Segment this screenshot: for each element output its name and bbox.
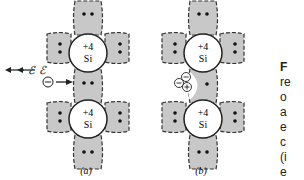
electron-a xyxy=(43,77,73,87)
caption-fragment: e xyxy=(280,165,304,180)
svg-text:+4: +4 xyxy=(198,107,209,118)
svg-text:Si: Si xyxy=(199,53,208,64)
svg-text:Si: Si xyxy=(84,53,93,64)
caption-column: F re o a e c (i e xyxy=(280,60,304,180)
caption-fragment: F xyxy=(280,60,304,75)
caption-fragment: re xyxy=(280,75,304,90)
svg-text:+4: +4 xyxy=(83,107,94,118)
panel-label-b: (b) xyxy=(195,165,207,177)
caption-fragment: o xyxy=(280,90,304,105)
caption-fragment: e xyxy=(280,120,304,135)
svg-text:+4: +4 xyxy=(198,41,209,52)
silicon-lattice-figure: +4 Si +4 Si ℰ (a) xyxy=(0,0,304,180)
caption-fragment: c xyxy=(280,135,304,150)
svg-text:Si: Si xyxy=(84,119,93,130)
caption-fragment: a xyxy=(280,105,304,120)
panel-a: +4 Si +4 Si ℰ (a) xyxy=(5,1,129,177)
svg-text:Si: Si xyxy=(199,119,208,130)
panel-label-a: (a) xyxy=(80,165,92,177)
panel-b: +4 Si +4 Si ℰ (b) xyxy=(17,1,244,177)
caption-fragment: (i xyxy=(280,150,304,165)
charge-label: +4 xyxy=(83,41,94,52)
svg-text:ℰ: ℰ xyxy=(39,64,47,76)
